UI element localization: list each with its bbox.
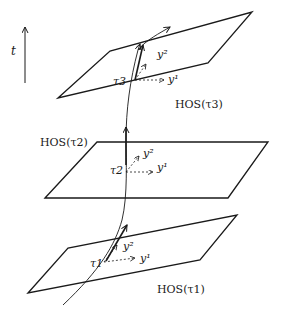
basis-tau3: τ3 y¹ y² HOS(τ3) xyxy=(113,45,223,111)
time-label: t xyxy=(11,44,16,58)
y1-label-tau3: y¹ xyxy=(167,73,179,86)
y1-label-tau2: y¹ xyxy=(156,161,168,174)
plane-tau1 xyxy=(28,215,237,293)
point-label-tau3: τ3 xyxy=(113,75,126,88)
point-label-tau2: τ2 xyxy=(110,164,123,177)
y2-label-tau3: y² xyxy=(156,48,168,61)
spacetime-diagram: t τ3 y¹ y² HOS(τ3) τ2 y¹ y² HOS(τ2) xyxy=(0,0,285,320)
plane-label-tau2: HOS(τ2) xyxy=(40,136,88,149)
plane-label-tau1: HOS(τ1) xyxy=(157,283,205,296)
y2-label-tau2: y² xyxy=(142,147,154,160)
y2-arrow-tau2-icon xyxy=(126,156,139,172)
tangent-arrow-tau3-icon xyxy=(135,45,143,80)
plane-tau3 xyxy=(58,12,252,98)
y1-label-tau1: y¹ xyxy=(139,252,151,265)
basis-tau2: τ2 y¹ y² HOS(τ2) xyxy=(40,127,168,177)
y1-arrow-tau1-icon xyxy=(104,258,135,262)
time-axis: t xyxy=(11,27,25,83)
point-label-tau1: τ1 xyxy=(90,257,103,270)
plane-label-tau3: HOS(τ3) xyxy=(175,98,223,111)
basis-tau1: τ1 y¹ y² HOS(τ1) xyxy=(90,225,205,296)
y2-label-tau1: y² xyxy=(122,240,134,253)
